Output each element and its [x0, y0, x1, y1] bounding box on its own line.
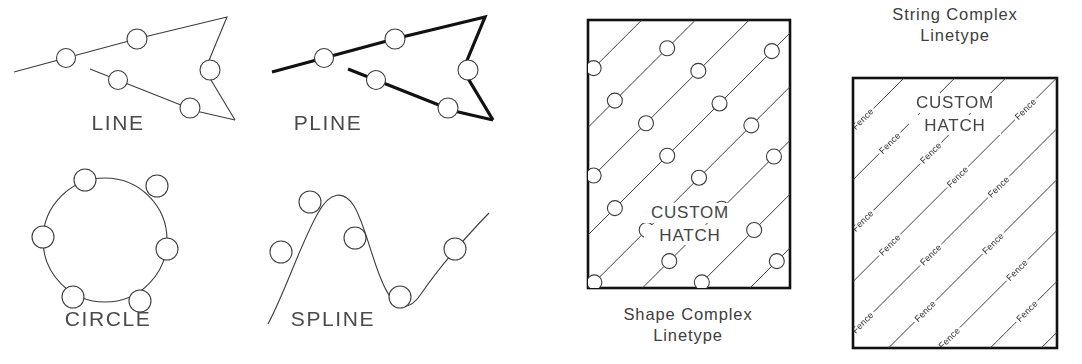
- hatch-fence-word: Fence: [980, 231, 1005, 256]
- vertex-marker-icon: [385, 29, 405, 49]
- vertex-marker-icon: [458, 60, 478, 80]
- hatch-segment: [599, 129, 641, 171]
- hatch-segment: [853, 154, 879, 180]
- hatch-segment: [672, 20, 695, 43]
- hatch-shape-circle-icon: [586, 168, 601, 183]
- hatch-fence-word: Fence: [918, 242, 943, 267]
- vertex-marker-icon: [344, 227, 366, 249]
- hatch-fence-word: Fence: [1014, 298, 1039, 323]
- vertex-marker-icon: [109, 71, 128, 90]
- hatch-segment: [750, 266, 772, 288]
- hatch-segment: [620, 161, 662, 203]
- hatch-segment: [725, 56, 767, 98]
- hatch-segment: [1038, 281, 1057, 300]
- hatch-segment: [960, 281, 1007, 328]
- vertex-marker-icon: [74, 169, 96, 191]
- vertex-marker-icon: [156, 238, 178, 260]
- hatch-segment: [620, 54, 662, 96]
- shape-caption-line1: Shape Complex: [623, 305, 752, 323]
- hatch-segment: [588, 106, 610, 128]
- entity-spline: [268, 191, 489, 324]
- entity-caption-pline: PLINE: [294, 111, 363, 134]
- hatch-fence-word: Fence: [1004, 257, 1029, 282]
- hatch-fence-word: Fence: [945, 164, 970, 189]
- hatch-shape-circle-icon: [639, 223, 654, 238]
- shape-hatch-fill: [586, 20, 790, 290]
- hatch-shape-circle-icon: [607, 93, 622, 108]
- hatch-shape-circle-icon: [638, 116, 653, 131]
- hatch-segment: [672, 109, 714, 151]
- string-complex-linetype-panel: String Complex Linetype FenceFenceFenceF…: [850, 5, 1057, 351]
- entity-circle: [32, 169, 178, 312]
- vertex-marker-icon: [127, 29, 147, 49]
- hatch-segment: [651, 76, 693, 118]
- vertex-marker-icon: [299, 191, 321, 213]
- vertex-marker-icon: [32, 226, 54, 248]
- hatch-shape-circle-icon: [712, 96, 727, 111]
- string-inner-label-line2: HATCH: [924, 116, 985, 135]
- hatch-segment: [900, 188, 947, 235]
- entity-pline: [272, 17, 493, 120]
- entity-caption-circle: CIRCLE: [65, 307, 152, 330]
- entity-caption-spline: SPLINE: [291, 307, 375, 330]
- shape-caption-line2: Linetype: [653, 326, 723, 344]
- vertex-marker-icon: [57, 49, 76, 68]
- shape-inner-label-line2: HATCH: [659, 226, 720, 245]
- hatch-shape-circle-icon: [744, 118, 759, 133]
- hatch-segment: [642, 266, 664, 288]
- hatch-shape-circle-icon: [607, 201, 622, 216]
- hatch-segment: [874, 265, 921, 312]
- hatch-shape-circle-icon: [764, 44, 779, 59]
- entity-caption-line: LINE: [91, 111, 144, 134]
- shape-inner-label-line1: CUSTOM: [651, 203, 729, 222]
- vertex-marker-icon: [200, 60, 220, 80]
- hatch-segment: [779, 140, 790, 151]
- vertex-marker-icon: [180, 98, 200, 118]
- hatch-segment: [727, 162, 769, 204]
- hatch-shape-circle-icon: [660, 148, 675, 163]
- hatch-fence-word: Fence: [913, 298, 938, 323]
- hatch-segment: [759, 194, 790, 225]
- hatch-shape-circle-icon: [694, 275, 709, 290]
- vertex-marker-icon: [444, 238, 466, 260]
- hatch-segment: [941, 198, 988, 245]
- vertex-marker-icon: [367, 71, 386, 90]
- hatch-segment: [599, 20, 642, 63]
- hatch-segment: [853, 255, 879, 281]
- hatch-segment: [777, 33, 790, 46]
- hatch-shape-circle-icon: [766, 149, 781, 164]
- hatch-segment: [936, 254, 983, 301]
- hatch-shape-circle-icon: [747, 223, 762, 238]
- entity-line: [14, 17, 235, 120]
- string-caption-line2: Linetype: [920, 26, 990, 44]
- hatch-shape-circle-icon: [769, 254, 784, 269]
- hatch-fence-word: Fence: [918, 140, 943, 165]
- hatch-fence-word: Fence: [1013, 96, 1038, 121]
- hatch-shape-circle-icon: [692, 170, 707, 185]
- hatch-shape-circle-icon: [587, 275, 602, 290]
- hatch-shape-circle-icon: [662, 254, 677, 269]
- drawing-canvas: CUSTOM HATCH Shape Complex Linetype Stri…: [0, 0, 1082, 364]
- hatch-segment: [888, 322, 914, 348]
- shape-complex-linetype-panel: CUSTOM HATCH Shape Complex Linetype: [586, 20, 790, 344]
- hatch-segment: [1041, 332, 1057, 348]
- hatch-segment: [1028, 230, 1057, 259]
- string-caption-line1: String Complex: [892, 5, 1017, 23]
- hatch-segment: [704, 20, 750, 66]
- hatch-segment: [874, 78, 904, 108]
- entity-circle-path: [43, 178, 167, 302]
- vertex-marker-icon: [315, 49, 334, 68]
- entity-examples: [14, 17, 493, 324]
- vertex-marker-icon: [270, 241, 292, 263]
- vertex-marker-icon: [146, 175, 168, 197]
- shape-hatch-boundary: [588, 20, 790, 288]
- entity-captions: LINEPLINECIRCLESPLINE: [65, 111, 375, 330]
- vertex-marker-icon: [438, 98, 458, 118]
- hatch-segment: [600, 235, 642, 277]
- hatch-shape-circle-icon: [586, 61, 601, 76]
- vertex-marker-icon: [62, 286, 84, 308]
- hatch-segment: [1004, 179, 1057, 232]
- hatch-segment: [1009, 129, 1057, 177]
- vertex-marker-icon: [389, 286, 411, 308]
- hatch-shape-circle-icon: [660, 41, 675, 56]
